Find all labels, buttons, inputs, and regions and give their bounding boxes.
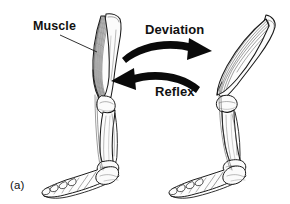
- panel-caption-label: (a): [10, 180, 24, 192]
- deviation-label: Deviation: [145, 23, 204, 36]
- muscle-label: Muscle: [33, 20, 76, 33]
- anatomy-figure-panel: Muscle Deviation Reflex (a): [0, 0, 290, 204]
- reflex-label: Reflex: [155, 85, 195, 98]
